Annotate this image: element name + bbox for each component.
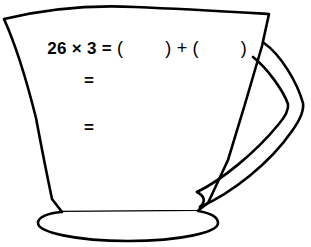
worksheet-canvas: 26 × 3 = () + () = =	[0, 0, 311, 247]
cup-with-handle-illustration	[0, 0, 311, 247]
cup-base-oval	[38, 211, 218, 241]
cup-body-outline	[4, 6, 269, 212]
